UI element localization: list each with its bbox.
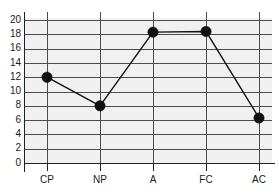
chart-container: 02468101214161820 CPNPAFCAC bbox=[0, 0, 279, 196]
x-axis-tick-labels: CPNPAFCAC bbox=[40, 174, 266, 185]
data-point-cp bbox=[42, 72, 52, 82]
y-tick-label-0: 0 bbox=[15, 157, 21, 168]
line-chart: 02468101214161820 CPNPAFCAC bbox=[0, 0, 279, 196]
y-tick-label-18: 18 bbox=[10, 28, 22, 39]
data-point-ac bbox=[254, 113, 264, 123]
y-tick-label-14: 14 bbox=[10, 57, 22, 68]
y-tick-label-20: 20 bbox=[10, 14, 22, 25]
y-tick-label-6: 6 bbox=[15, 114, 21, 125]
x-tick-label-a: A bbox=[150, 174, 157, 185]
y-tick-label-12: 12 bbox=[10, 71, 22, 82]
data-point-fc bbox=[201, 26, 211, 36]
x-tick-label-ac: AC bbox=[252, 174, 266, 185]
x-tick-label-cp: CP bbox=[40, 174, 54, 185]
y-tick-label-16: 16 bbox=[10, 42, 22, 53]
y-tick-label-10: 10 bbox=[10, 85, 22, 96]
y-tick-label-2: 2 bbox=[15, 142, 21, 153]
y-tick-label-4: 4 bbox=[15, 128, 21, 139]
x-tick-label-fc: FC bbox=[199, 174, 212, 185]
y-tick-label-8: 8 bbox=[15, 99, 21, 110]
data-point-a bbox=[148, 27, 158, 37]
x-axis-tick-marks bbox=[48, 163, 260, 171]
y-axis-tick-labels: 02468101214161820 bbox=[10, 14, 22, 168]
x-tick-label-np: NP bbox=[93, 174, 107, 185]
data-point-np bbox=[95, 101, 105, 111]
